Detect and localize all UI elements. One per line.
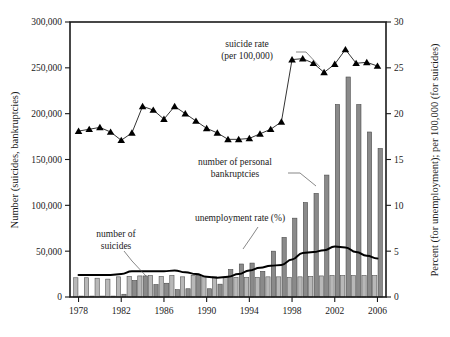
suicide-rate-marker bbox=[139, 103, 147, 109]
bars-layer bbox=[74, 77, 383, 297]
y-axis-tick-label: 100,000 bbox=[31, 201, 62, 211]
bar-suicides bbox=[116, 277, 120, 297]
bar-bankruptcies bbox=[357, 105, 361, 298]
bar-bankruptcies bbox=[143, 276, 147, 297]
suicides-annotation-line: suicides bbox=[101, 241, 132, 251]
x-axis-tick-label: 2002 bbox=[325, 306, 344, 316]
bankruptcies-annotation-line: number of personal bbox=[198, 157, 272, 167]
suicide-rate-marker bbox=[107, 128, 115, 134]
y2-axis-tick-label: 15 bbox=[394, 155, 404, 165]
suicide-rate-marker bbox=[342, 46, 350, 52]
bankruptcies-annotation-line: bankruptcies bbox=[211, 169, 260, 179]
bar-suicides bbox=[373, 275, 377, 297]
bar-bankruptcies bbox=[165, 283, 169, 297]
y2-axis-tick-label: 10 bbox=[394, 201, 404, 211]
bar-suicides bbox=[202, 277, 206, 297]
left-axis: 050,000100,000150,000200,000250,000300,0… bbox=[31, 17, 70, 302]
suicide-rate-marker bbox=[128, 129, 136, 135]
bar-suicides bbox=[319, 276, 323, 297]
bar-suicides bbox=[84, 278, 88, 297]
bar-suicides bbox=[138, 276, 142, 297]
bar-bankruptcies bbox=[186, 289, 190, 297]
bar-bankruptcies bbox=[133, 281, 137, 298]
bar-bankruptcies bbox=[239, 264, 243, 297]
suicide-rate-marker bbox=[149, 106, 157, 112]
bar-suicides bbox=[362, 275, 366, 297]
bar-bankruptcies bbox=[175, 290, 179, 297]
bar-suicides bbox=[341, 275, 345, 297]
suicide-rate-marker bbox=[299, 55, 307, 61]
bar-suicides bbox=[127, 276, 131, 297]
bar-suicides bbox=[148, 275, 152, 297]
x-axis-tick-label: 2006 bbox=[368, 306, 387, 316]
y-axis-tick-label: 250,000 bbox=[31, 63, 62, 73]
bar-suicides bbox=[159, 276, 163, 297]
suicide-rate-marker bbox=[256, 130, 264, 136]
bar-suicides bbox=[309, 276, 313, 297]
bar-suicides bbox=[277, 277, 281, 297]
y-axis-tick-label: 0 bbox=[57, 292, 62, 302]
bar-bankruptcies bbox=[367, 132, 371, 297]
bar-bankruptcies bbox=[335, 105, 339, 298]
unemployment-rate-path bbox=[79, 247, 378, 278]
suicide-rate-marker bbox=[331, 61, 339, 67]
y-axis-tick-label: 50,000 bbox=[36, 247, 62, 257]
bar-suicides bbox=[298, 277, 302, 297]
bar-bankruptcies bbox=[378, 149, 382, 298]
bar-suicides bbox=[330, 275, 334, 297]
bar-bankruptcies bbox=[282, 237, 286, 297]
unemployment-annotation: unemployment rate (%) bbox=[195, 213, 285, 249]
y2-axis-tick-label: 30 bbox=[394, 17, 404, 27]
bar-bankruptcies bbox=[218, 284, 222, 297]
bar-bankruptcies bbox=[207, 289, 211, 297]
right-axis: 051015202530 bbox=[386, 17, 404, 302]
bar-suicides bbox=[223, 277, 227, 297]
bar-suicides bbox=[95, 278, 99, 297]
suicide-rate-annotation-line: (per 100,000) bbox=[221, 51, 273, 62]
x-axis-tick-label: 1994 bbox=[240, 306, 259, 316]
suicide-rate-marker bbox=[214, 129, 222, 135]
x-axis-tick-label: 1986 bbox=[154, 306, 173, 316]
bar-suicides bbox=[74, 278, 78, 297]
x-axis: 19781982198619901994199820022006 bbox=[69, 297, 387, 316]
x-axis-tick-label: 1978 bbox=[69, 306, 88, 316]
suicide-rate-marker bbox=[117, 137, 125, 143]
y2-axis-tick-label: 20 bbox=[394, 109, 404, 119]
bar-suicides bbox=[351, 275, 355, 297]
bar-bankruptcies bbox=[250, 263, 254, 297]
bar-suicides bbox=[180, 277, 184, 297]
y-axis-title: Number (suicides, bankruptcies) bbox=[9, 91, 21, 228]
bar-bankruptcies bbox=[271, 251, 275, 297]
chart-svg: 050,000100,000150,000200,000250,000300,0… bbox=[0, 0, 450, 337]
bar-suicides bbox=[244, 277, 248, 297]
bar-bankruptcies bbox=[314, 193, 318, 297]
bar-bankruptcies bbox=[154, 285, 158, 297]
bar-suicides bbox=[234, 277, 238, 297]
suicide-rate-marker bbox=[171, 103, 179, 109]
x-axis-tick-label: 1982 bbox=[112, 306, 131, 316]
suicide-rate-marker bbox=[374, 62, 382, 68]
suicides-annotation: number ofsuicides bbox=[96, 229, 146, 276]
suicide-rate-marker bbox=[363, 59, 371, 65]
suicide-rate-marker bbox=[182, 110, 190, 116]
suicide-rate-marker bbox=[278, 118, 286, 124]
y-axis-tick-label: 150,000 bbox=[31, 155, 62, 165]
bar-suicides bbox=[212, 277, 216, 297]
y-axis-tick-label: 300,000 bbox=[31, 17, 62, 27]
bar-bankruptcies bbox=[303, 203, 307, 297]
suicide-rate-annotation: suicide rate(per 100,000) bbox=[221, 39, 320, 67]
y2-axis-tick-label: 5 bbox=[394, 247, 399, 257]
y-axis-tick-label: 200,000 bbox=[31, 109, 62, 119]
unemployment-annotation-leader bbox=[243, 227, 258, 249]
suicide-rate-marker bbox=[192, 117, 200, 123]
x-axis-tick-label: 1990 bbox=[197, 306, 216, 316]
y2-axis-title: Percent (for unemployment); per 100,000 … bbox=[429, 43, 441, 276]
suicide-rate-marker bbox=[267, 126, 275, 132]
unemployment-line bbox=[79, 247, 378, 278]
bar-suicides bbox=[266, 277, 270, 297]
chart-figure: 050,000100,000150,000200,000250,000300,0… bbox=[0, 0, 450, 337]
suicides-annotation-line: number of bbox=[96, 229, 136, 239]
suicide-rate-annotation-line: suicide rate bbox=[225, 39, 269, 49]
bar-suicides bbox=[255, 277, 259, 297]
suicide-rate-path bbox=[79, 50, 378, 141]
